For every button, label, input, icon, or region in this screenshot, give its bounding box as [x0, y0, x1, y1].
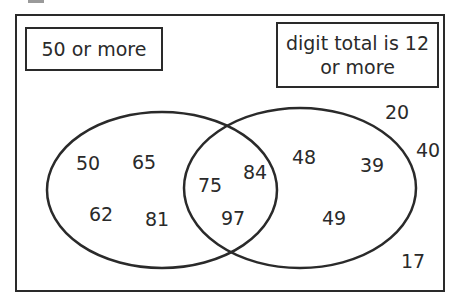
number-left-only: 81	[145, 208, 169, 230]
number-outside: 40	[416, 139, 440, 161]
number-left-only: 65	[132, 151, 156, 173]
number-outside: 17	[401, 250, 425, 272]
number-right-only: 48	[292, 146, 316, 168]
number-right-only: 39	[360, 154, 384, 176]
number-intersection: 84	[243, 161, 267, 183]
number-outside: 20	[385, 101, 409, 123]
number-right-only: 49	[322, 207, 346, 229]
venn-circles	[0, 0, 456, 305]
number-intersection: 75	[198, 174, 222, 196]
number-intersection: 97	[221, 207, 245, 229]
number-left-only: 50	[76, 152, 100, 174]
number-left-only: 62	[89, 203, 113, 225]
left-set-ellipse	[47, 112, 277, 268]
